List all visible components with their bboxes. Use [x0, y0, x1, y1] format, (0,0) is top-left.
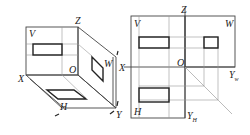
w-plane-label: W	[104, 58, 114, 69]
right-unfolded-view: Z V W O X Yw H YH	[118, 4, 239, 123]
origin-label: O	[69, 64, 76, 75]
left-3d-view: Z V O W X H Y	[17, 15, 123, 120]
x-axis-label: X	[118, 62, 126, 73]
v-projection	[33, 44, 62, 55]
x-axis-label: X	[17, 73, 25, 84]
w-projection	[92, 57, 103, 81]
w-plane-label: W	[225, 18, 235, 29]
yw-axis-label: Yw	[229, 69, 239, 82]
y-axis-label: Y	[116, 109, 123, 120]
v-plane-label: V	[134, 18, 142, 29]
reflection-line	[185, 67, 232, 114]
h-plane-edge	[30, 79, 64, 108]
z-axis-label: Z	[181, 4, 187, 15]
rotation-arrow-icon	[55, 114, 59, 116]
z-axis-label: Z	[75, 15, 81, 26]
origin-label: O	[177, 57, 184, 68]
yh-axis-label: YH	[187, 110, 198, 123]
h-plane-label: H	[133, 106, 142, 117]
rotation-arrow-icon	[117, 101, 118, 106]
projection-diagram: Z V O W X H Y Z V W O X Yw H	[0, 0, 250, 135]
h-plane-label: H	[59, 101, 68, 112]
v-projection	[139, 37, 169, 48]
guide-line	[78, 44, 92, 56]
rotation-arrow-icon	[117, 51, 118, 55]
w-projection	[204, 37, 218, 48]
v-plane-label: V	[29, 28, 37, 39]
h-projection	[47, 90, 86, 99]
rotation-arrow-icon	[110, 111, 114, 114]
